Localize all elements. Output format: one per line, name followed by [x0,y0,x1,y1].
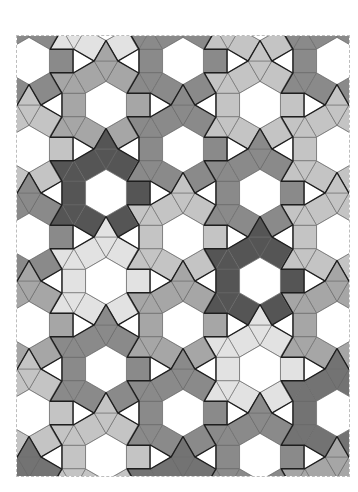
dodecagon-square [203,137,227,161]
dodecagon-square [126,93,150,117]
dodecagon-square [203,401,227,425]
dodecagon-square [216,93,240,117]
dodecagon-square [139,313,163,337]
dodecagon-square [280,181,304,205]
dodecagon-square [293,225,317,249]
dodecagon-square [139,225,163,249]
dodecagon-square [49,313,73,337]
dodecagon-square [62,445,86,469]
dodecagon-square [49,137,73,161]
dodecagon-square [280,445,304,469]
dodecagon-square [293,49,317,73]
dodecagon-square [280,357,304,381]
dodecagon-square [62,93,86,117]
dodecagon-square [126,445,150,469]
dodecagon-square [126,357,150,381]
dodecagon-square [216,269,240,293]
dodecagon-square [203,49,227,73]
dodecagon-square [139,401,163,425]
dodecagon-square [280,269,304,293]
dodecagon-square [62,181,86,205]
dodecagon-square [49,49,73,73]
dodecagon-square [62,357,86,381]
dodecagon-square [203,225,227,249]
dodecagon-square [139,49,163,73]
dodecagon-square [139,137,163,161]
tiling-frame [17,36,349,476]
dodecagon-square [126,181,150,205]
dodecagon-square [293,137,317,161]
dodecagon-square [216,357,240,381]
dodecagon-square [293,401,317,425]
dodecagon-square [62,269,86,293]
dodecagon-square [49,401,73,425]
dodecagon-square [293,313,317,337]
dodecagon-square [126,269,150,293]
dodecagon-square [280,93,304,117]
dodecagon-square [216,445,240,469]
dodecagon-tiling-image [17,36,349,476]
dodecagon-square [203,313,227,337]
dodecagon-square [216,181,240,205]
dodecagon-square [49,225,73,249]
